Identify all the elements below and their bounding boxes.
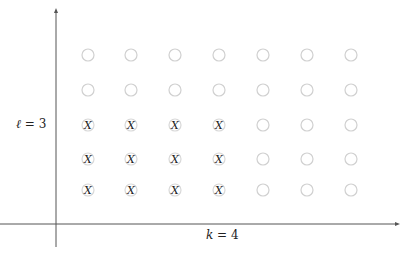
empty-point: [169, 49, 181, 61]
x-marker: X: [83, 153, 93, 166]
empty-point: [125, 84, 137, 96]
x-marker: X: [170, 119, 180, 132]
empty-point: [345, 49, 357, 61]
empty-point: [345, 84, 357, 96]
x-axis-label: k = 4: [206, 228, 239, 242]
x-marker: X: [170, 153, 180, 166]
empty-point: [301, 184, 313, 196]
empty-point: [301, 49, 313, 61]
y-axis-label: ℓ = 3: [16, 117, 46, 132]
y-axis-arrow-icon: [54, 8, 58, 13]
x-marker: X: [83, 119, 93, 132]
empty-point: [257, 84, 269, 96]
x-marker: X: [214, 153, 224, 166]
empty-point: [301, 119, 313, 131]
y-label-eq: = 3: [21, 117, 46, 131]
empty-point: [82, 49, 94, 61]
empty-point: [257, 153, 269, 165]
x-axis-arrow-icon: [395, 222, 400, 226]
empty-point: [213, 84, 225, 96]
empty-point: [213, 49, 225, 61]
empty-point: [257, 184, 269, 196]
lattice-diagram: XXXXXXXXXXXX: [0, 0, 417, 257]
empty-point: [345, 184, 357, 196]
empty-point: [257, 119, 269, 131]
empty-point: [301, 84, 313, 96]
x-marker: X: [126, 184, 136, 197]
x-marker: X: [126, 153, 136, 166]
empty-point: [345, 153, 357, 165]
x-marker: X: [214, 119, 224, 132]
empty-point: [257, 49, 269, 61]
x-marker: X: [170, 184, 180, 197]
empty-point: [169, 84, 181, 96]
empty-point: [301, 153, 313, 165]
empty-point: [345, 119, 357, 131]
x-label-eq: = 4: [213, 228, 238, 242]
empty-point: [125, 49, 137, 61]
empty-point: [82, 84, 94, 96]
point-grid: XXXXXXXXXXXX: [82, 49, 357, 197]
x-marker: X: [214, 184, 224, 197]
x-marker: X: [126, 119, 136, 132]
x-marker: X: [83, 184, 93, 197]
